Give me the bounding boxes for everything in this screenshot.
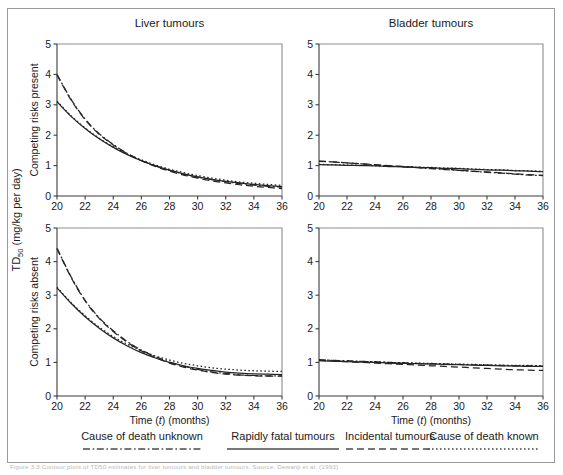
x-tick-label-bladder-competing-risks-present-28: 28 <box>425 200 437 212</box>
x-tick-label-bladder-competing-risks-present-20: 20 <box>313 200 325 212</box>
y-tick-label-liver-competing-risks-present-4: 4 <box>45 68 51 80</box>
curve-liver-competing-risks-present-series-3 <box>57 101 282 185</box>
x-tick-label-liver-competing-risks-present-22: 22 <box>79 200 91 212</box>
x-tick-label-liver-competing-risks-absent-26: 26 <box>136 400 148 412</box>
legend-label-0: Cause of death unknown <box>81 430 203 442</box>
y-tick-label-bladder-competing-risks-present-5: 5 <box>307 38 313 50</box>
curve-liver-competing-risks-absent-series-3 <box>57 287 282 371</box>
y-tick-label-liver-competing-risks-absent-3: 3 <box>45 289 51 301</box>
panel-axes-liver-competing-risks-absent <box>57 228 282 396</box>
y-tick-label-liver-competing-risks-absent-2: 2 <box>45 322 51 334</box>
legend-label-1: Rapidly fatal tumours <box>231 430 335 442</box>
figure-root: Liver tumoursBladder tumours012345202224… <box>0 0 563 475</box>
y-tick-label-liver-competing-risks-absent-5: 5 <box>45 222 51 234</box>
x-tick-label-bladder-competing-risks-present-22: 22 <box>341 200 353 212</box>
x-tick-label-liver-competing-risks-absent-20: 20 <box>51 400 63 412</box>
y-tick-label-liver-competing-risks-present-1: 1 <box>45 159 51 171</box>
x-tick-label-liver-competing-risks-present-24: 24 <box>107 200 119 212</box>
y-axis-main-label: TD50 (mg/kg per day) <box>10 168 25 271</box>
x-tick-label-liver-competing-risks-absent-30: 30 <box>192 400 204 412</box>
row-label-competing-risks-present: Competing risks present <box>28 63 40 176</box>
x-tick-label-liver-competing-risks-absent-36: 36 <box>276 400 288 412</box>
x-tick-label-liver-competing-risks-present-28: 28 <box>164 200 176 212</box>
x-tick-label-liver-competing-risks-present-30: 30 <box>192 200 204 212</box>
x-tick-label-liver-competing-risks-absent-22: 22 <box>79 400 91 412</box>
curve-bladder-competing-risks-present-series-2 <box>319 161 543 175</box>
x-tick-label-bladder-competing-risks-absent-28: 28 <box>425 400 437 412</box>
row-label-competing-risks-absent: Competing risks absent <box>28 257 40 367</box>
y-tick-label-bladder-competing-risks-absent-3: 3 <box>307 289 313 301</box>
panel-title-bladder: Bladder tumours <box>389 17 474 29</box>
y-tick-label-liver-competing-risks-present-3: 3 <box>45 98 51 110</box>
x-tick-label-bladder-competing-risks-absent-26: 26 <box>397 400 409 412</box>
x-tick-label-bladder-competing-risks-present-32: 32 <box>481 200 493 212</box>
x-axis-label-bladder: Time (t) (months) <box>391 414 471 426</box>
x-tick-label-liver-competing-risks-present-20: 20 <box>51 200 63 212</box>
x-axis-label-liver: Time (t) (months) <box>129 414 209 426</box>
panel-axes-liver-competing-risks-present <box>57 44 282 196</box>
y-tick-label-liver-competing-risks-present-2: 2 <box>45 129 51 141</box>
plot-canvas: Liver tumoursBladder tumours012345202224… <box>0 0 563 475</box>
y-tick-label-bladder-competing-risks-present-3: 3 <box>307 98 313 110</box>
y-tick-label-bladder-competing-risks-absent-5: 5 <box>307 222 313 234</box>
x-tick-label-liver-competing-risks-present-34: 34 <box>248 200 260 212</box>
panel-frame-liver-competing-risks-absent <box>57 228 282 396</box>
y-tick-label-bladder-competing-risks-absent-2: 2 <box>307 322 313 334</box>
legend-label-3: Cause of death known <box>429 430 538 442</box>
curve-liver-competing-risks-present-series-2 <box>57 75 282 189</box>
panel-frame-bladder-competing-risks-absent <box>319 228 543 396</box>
y-tick-label-bladder-competing-risks-present-2: 2 <box>307 129 313 141</box>
curve-liver-competing-risks-absent-series-2 <box>57 249 282 376</box>
x-tick-label-liver-competing-risks-absent-24: 24 <box>107 400 119 412</box>
curve-liver-competing-risks-absent-series-0 <box>57 248 282 376</box>
panel-axes-bladder-competing-risks-absent <box>319 228 543 396</box>
x-tick-label-liver-competing-risks-present-32: 32 <box>220 200 232 212</box>
y-tick-label-bladder-competing-risks-present-1: 1 <box>307 159 313 171</box>
curve-liver-competing-risks-present-series-1 <box>57 102 282 187</box>
x-tick-label-bladder-competing-risks-absent-34: 34 <box>509 400 521 412</box>
x-tick-label-bladder-competing-risks-absent-24: 24 <box>369 400 381 412</box>
y-tick-label-bladder-competing-risks-absent-1: 1 <box>307 356 313 368</box>
x-tick-label-bladder-competing-risks-absent-30: 30 <box>453 400 465 412</box>
x-tick-label-bladder-competing-risks-absent-22: 22 <box>341 400 353 412</box>
x-tick-label-liver-competing-risks-absent-34: 34 <box>248 400 260 412</box>
x-tick-label-bladder-competing-risks-present-24: 24 <box>369 200 381 212</box>
x-tick-label-bladder-competing-risks-present-36: 36 <box>537 200 549 212</box>
x-tick-label-bladder-competing-risks-present-30: 30 <box>453 200 465 212</box>
y-tick-label-bladder-competing-risks-absent-4: 4 <box>307 255 313 267</box>
y-tick-label-liver-competing-risks-absent-1: 1 <box>45 356 51 368</box>
x-tick-label-liver-competing-risks-present-36: 36 <box>276 200 288 212</box>
x-tick-label-liver-competing-risks-present-26: 26 <box>136 200 148 212</box>
x-tick-label-bladder-competing-risks-absent-32: 32 <box>481 400 493 412</box>
curve-liver-competing-risks-absent-series-1 <box>57 288 282 375</box>
x-tick-label-bladder-competing-risks-present-34: 34 <box>509 200 521 212</box>
y-tick-label-liver-competing-risks-present-5: 5 <box>45 38 51 50</box>
legend-label-2: Incidental tumours <box>345 430 435 442</box>
x-tick-label-bladder-competing-risks-absent-36: 36 <box>537 400 549 412</box>
x-tick-label-liver-competing-risks-absent-32: 32 <box>220 400 232 412</box>
figure-caption: Figure 3.3 Contour plots of TD50 estimat… <box>10 463 555 470</box>
x-tick-label-liver-competing-risks-absent-28: 28 <box>164 400 176 412</box>
x-tick-label-bladder-competing-risks-absent-20: 20 <box>313 400 325 412</box>
y-tick-label-bladder-competing-risks-present-4: 4 <box>307 68 313 80</box>
panel-frame-liver-competing-risks-present <box>57 44 282 196</box>
y-tick-label-liver-competing-risks-absent-4: 4 <box>45 255 51 267</box>
x-tick-label-bladder-competing-risks-present-26: 26 <box>397 200 409 212</box>
panel-title-liver: Liver tumours <box>135 17 205 29</box>
